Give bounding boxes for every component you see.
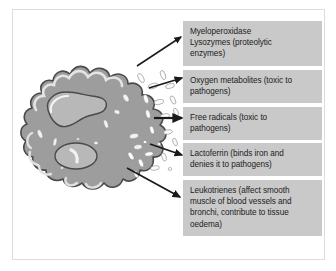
label-line: pathogens) [190, 123, 316, 134]
label-line: enzymes) [190, 48, 316, 59]
label-box-free-radicals: Free radicals (toxic to pathogens) [183, 107, 322, 140]
arrow-to-leukotrienes [127, 168, 180, 197]
label-line: denies it to pathogens) [190, 159, 316, 170]
label-line: Leukotrienes (affect smooth [190, 185, 316, 196]
label-line: Lysozymes (proteolytic [190, 37, 316, 48]
label-line: Oxygen metabolites (toxic to [190, 75, 316, 86]
label-box-myeloperoxidase: Myeloperoxidase Lysozymes (proteolytic e… [183, 21, 322, 66]
label-line: Myeloperoxidase [190, 26, 316, 37]
arrow-to-oxygen-metabolites [149, 78, 182, 88]
arrow-to-lactoferrin [150, 144, 182, 155]
neutrophil-granule-figure: Myeloperoxidase Lysozymes (proteolytic e… [0, 0, 336, 271]
label-line: Lactoferrin (binds iron and [190, 148, 316, 159]
arrow-to-myeloperoxidase [137, 37, 181, 66]
label-line: bronchi, contribute to tissue [190, 207, 316, 218]
label-line: muscle of blood vessels and [190, 196, 316, 207]
label-box-lactoferrin: Lactoferrin (binds iron and denies it to… [183, 143, 322, 176]
label-box-leukotrienes: Leukotrienes (affect smooth muscle of bl… [183, 180, 322, 236]
label-box-oxygen-metabolites: Oxygen metabolites (toxic to pathogens) [183, 70, 322, 103]
label-line: oedema) [190, 219, 316, 230]
label-line: Free radicals (toxic to [190, 112, 316, 123]
label-line: pathogens) [190, 86, 316, 97]
